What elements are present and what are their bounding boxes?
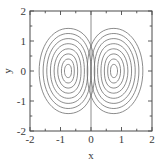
x-tick-label: -1 — [56, 133, 65, 145]
y-tick-label: -2 — [17, 125, 26, 137]
x-tick-labels-group: -2-1012 — [25, 133, 154, 145]
x-tick-label: -2 — [25, 133, 34, 145]
y-tick-labels-group: -2-1012 — [17, 5, 27, 137]
x-tick-label: 0 — [88, 133, 94, 145]
y-axis-title: y — [1, 68, 13, 74]
x-axis-title: x — [88, 149, 94, 161]
plot-canvas: -2-1012 -2-1012 x y — [0, 0, 167, 165]
x-tick-label: 1 — [119, 133, 125, 145]
y-tick-label: 2 — [21, 5, 27, 17]
contour-plot-figure: -2-1012 -2-1012 x y — [0, 0, 167, 165]
y-tick-label: 0 — [21, 65, 27, 77]
x-tick-label: 2 — [149, 133, 155, 145]
y-tick-label: 1 — [21, 35, 27, 47]
y-tick-label: -1 — [17, 95, 26, 107]
